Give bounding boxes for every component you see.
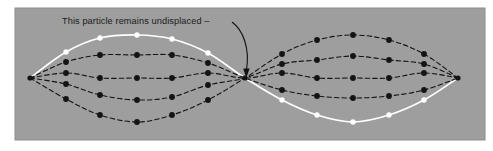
particle-dot bbox=[314, 37, 320, 43]
particle-dot bbox=[134, 52, 140, 58]
particle-dot bbox=[205, 60, 211, 66]
particle-dot bbox=[97, 75, 103, 81]
particle-dot bbox=[350, 119, 355, 124]
particle-dot bbox=[169, 36, 174, 41]
particle-dot bbox=[97, 92, 103, 98]
particle-dot bbox=[386, 112, 391, 117]
particle-dot bbox=[63, 81, 69, 87]
standing-wave-diagram: This particle remains undisplaced – bbox=[0, 0, 493, 151]
particle-dot bbox=[314, 112, 319, 117]
particle-dot bbox=[386, 75, 392, 81]
particle-dot bbox=[314, 57, 320, 63]
particle-dot bbox=[350, 75, 356, 81]
particle-dot bbox=[63, 70, 69, 76]
particle-dot bbox=[205, 50, 210, 55]
particle-dot bbox=[63, 59, 69, 65]
particle-dot bbox=[386, 57, 392, 63]
particle-dot bbox=[97, 52, 103, 58]
particle-dot bbox=[350, 32, 356, 38]
particle-dot bbox=[63, 49, 68, 54]
particle-dot bbox=[314, 75, 320, 81]
particle-dot bbox=[205, 82, 211, 88]
particle-dot bbox=[169, 112, 175, 118]
particle-dot bbox=[205, 70, 211, 76]
particle-dot bbox=[279, 97, 284, 102]
particle-dot bbox=[421, 70, 427, 76]
particle-dot bbox=[134, 32, 139, 37]
particle-dot bbox=[97, 112, 103, 118]
particle-dot bbox=[279, 61, 285, 67]
particle-dot bbox=[134, 75, 140, 81]
particle-dot bbox=[97, 35, 102, 40]
particle-dot bbox=[134, 119, 140, 125]
particle-dot bbox=[421, 97, 426, 102]
node-marker-center-node bbox=[242, 75, 247, 80]
particle-dot bbox=[386, 93, 392, 99]
particle-dot bbox=[169, 94, 175, 100]
particle-dot bbox=[421, 87, 427, 93]
particle-dot bbox=[205, 97, 211, 103]
particle-dot bbox=[279, 51, 285, 57]
node-marker-left-node bbox=[27, 75, 32, 80]
particle-dot bbox=[421, 51, 427, 57]
particle-dot bbox=[314, 93, 320, 99]
figure-container: This particle remains undisplaced – bbox=[0, 0, 493, 151]
annotation-label: This particle remains undisplaced – bbox=[62, 16, 210, 26]
particle-dot bbox=[421, 61, 427, 67]
particle-dot bbox=[386, 37, 392, 43]
particle-dot bbox=[279, 70, 285, 76]
particle-dot bbox=[134, 97, 140, 103]
particle-dot bbox=[169, 52, 175, 58]
particle-dot bbox=[350, 53, 356, 59]
particle-dot bbox=[63, 96, 69, 102]
particle-dot bbox=[350, 95, 356, 101]
particle-dot bbox=[169, 75, 175, 81]
node-marker-right-node bbox=[455, 75, 460, 80]
particle-dot bbox=[279, 87, 285, 93]
